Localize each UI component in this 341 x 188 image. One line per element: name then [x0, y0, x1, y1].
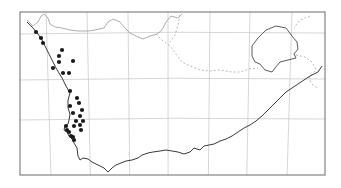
occurrence-point — [60, 48, 64, 52]
distribution-map — [0, 0, 341, 188]
occurrence-point — [80, 108, 84, 112]
occurrence-point — [67, 71, 71, 75]
meridian-line — [46, 12, 51, 175]
map-frame — [20, 12, 325, 175]
eastern-border — [294, 16, 317, 88]
occurrence-point — [57, 60, 61, 64]
parallel-line — [20, 118, 325, 120]
map-canvas — [0, 0, 341, 188]
occurrence-point — [72, 124, 76, 128]
occurrence-point — [71, 59, 75, 63]
occurrence-point — [74, 119, 78, 123]
occurrence-point — [57, 54, 61, 58]
occurrence-point — [51, 66, 55, 70]
occurrence-point — [79, 128, 83, 132]
coastline — [27, 22, 322, 172]
occurrence-point — [34, 30, 38, 34]
graticule — [20, 12, 325, 175]
occurrence-point — [39, 36, 43, 40]
parallel-line — [20, 78, 325, 80]
meridian-line — [287, 12, 292, 175]
botswana-border — [156, 15, 258, 72]
meridian-line — [247, 12, 250, 175]
occurrence-point — [61, 71, 65, 75]
occurrence-point — [41, 41, 45, 45]
parallel-line — [20, 32, 325, 34]
meridian-line — [87, 12, 90, 175]
occurrence-point — [64, 124, 68, 128]
occurrence-point — [68, 89, 72, 93]
occurrence-point — [68, 104, 72, 108]
occurrence-point — [78, 114, 82, 118]
occurrence-point — [75, 96, 79, 100]
meridian-line — [208, 12, 210, 175]
occurrence-points — [34, 30, 85, 142]
occurrence-point — [81, 119, 85, 123]
occurrence-point — [71, 111, 75, 115]
occurrence-point — [77, 101, 81, 105]
northern-border — [27, 14, 182, 39]
occurrence-point — [78, 123, 82, 127]
occurrence-point — [72, 138, 76, 142]
occurrence-point — [67, 130, 71, 134]
meridian-line — [128, 12, 130, 175]
